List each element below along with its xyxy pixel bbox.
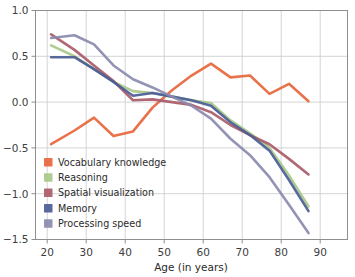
y-tick-label: −0.5 [3,142,29,154]
legend-label: Vocabulary knowledge [58,157,166,168]
line-chart: 1.00.50.0−0.5−1.0−1.5 2030405060708090 A… [0,0,355,277]
x-axis-title: Age (in years) [154,261,228,273]
y-tick-label: 1.0 [12,4,29,16]
legend-swatch [44,173,53,182]
x-tick-label: 90 [314,246,327,258]
legend-swatch [44,158,53,167]
x-tick-label: 80 [275,246,288,258]
x-tick-label: 70 [236,246,249,258]
legend-label: Processing speed [58,218,141,229]
legend-swatch [44,189,53,198]
legend-swatch [44,204,53,213]
y-tick-label: 0.0 [12,96,29,108]
x-tick-label: 20 [41,246,54,258]
figure-background [0,0,355,277]
legend-label: Spatial visualization [58,187,154,198]
legend-label: Reasoning [58,172,108,183]
chart-figure: 1.00.50.0−0.5−1.0−1.5 2030405060708090 A… [0,0,355,277]
legend-swatch [44,219,53,228]
y-tick-label: 0.5 [12,50,29,62]
legend-label: Memory [58,203,97,214]
y-tick-label: −1.0 [3,188,29,200]
y-tick-label: −1.5 [3,233,29,245]
x-tick-label: 50 [158,246,171,258]
x-tick-label: 60 [197,246,210,258]
x-tick-label: 40 [119,246,132,258]
x-tick-label: 30 [80,246,93,258]
